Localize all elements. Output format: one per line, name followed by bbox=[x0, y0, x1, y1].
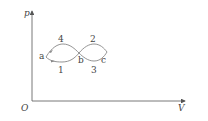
process-1-label: 1 bbox=[58, 65, 64, 75]
origin-label: O bbox=[21, 103, 29, 113]
point-c-label: c bbox=[101, 55, 106, 65]
process-3-label: 3 bbox=[91, 65, 97, 75]
pv-diagram: p O V a b c 4 2 1 3 bbox=[0, 0, 208, 121]
point-b-label: b bbox=[78, 55, 84, 65]
process-2-label: 2 bbox=[90, 34, 96, 44]
process-4-label: 4 bbox=[58, 34, 64, 44]
process-4-curve bbox=[46, 44, 79, 57]
y-axis-label: p bbox=[24, 8, 30, 18]
process-1-curve bbox=[46, 53, 79, 62]
point-a-label: a bbox=[39, 51, 45, 61]
x-axis-label: V bbox=[178, 103, 186, 113]
process-2-curve bbox=[79, 44, 107, 53]
